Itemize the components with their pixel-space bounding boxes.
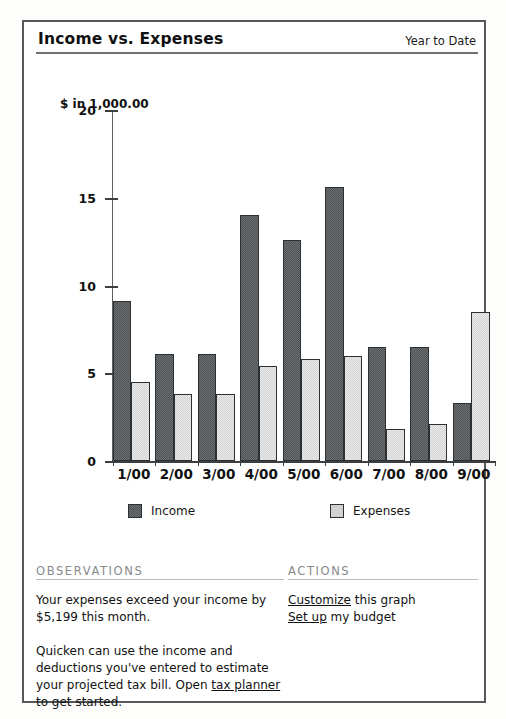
bar-income-2-00 — [155, 354, 174, 461]
bar-income-8-00 — [410, 347, 429, 461]
actions-section: ACTIONS Customize this graph Set up my b… — [288, 560, 478, 626]
bar-expenses-8-00 — [429, 424, 448, 461]
page-title: Income vs. Expenses — [38, 30, 223, 48]
x-tick-end — [495, 461, 496, 466]
observations-divider — [36, 579, 284, 580]
y-tick-10: 10 — [105, 286, 118, 288]
bar-expenses-7-00 — [386, 429, 405, 461]
x-axis-label-3-00: 3/00 — [196, 466, 243, 482]
tax-planner-link[interactable]: tax planner — [211, 678, 280, 692]
legend-swatch-expenses-icon — [330, 504, 344, 518]
bar-expenses-4-00 — [259, 366, 278, 461]
observation-text-after-link: to get started. — [36, 695, 122, 709]
bar-expenses-1-00 — [131, 382, 150, 461]
bar-expenses-2-00 — [174, 394, 193, 461]
x-axis-label-4-00: 4/00 — [238, 466, 285, 482]
set-up-budget-text: my budget — [327, 610, 396, 624]
bar-income-5-00 — [283, 240, 302, 461]
period-label: Year to Date — [405, 34, 476, 48]
y-tick-label-10: 10 — [79, 279, 96, 294]
y-tick-0: 0 — [105, 461, 118, 463]
y-tick-label-20: 20 — [79, 103, 96, 118]
x-axis-label-7-00: 7/00 — [366, 466, 413, 482]
bar-expenses-3-00 — [216, 394, 235, 461]
action-item-budget: Set up my budget — [288, 609, 478, 626]
observation-paragraph-1: Your expenses exceed your income by $5,1… — [36, 592, 284, 626]
header-divider — [36, 52, 478, 54]
y-axis-unit-label: $ in 1,000.00 — [60, 97, 149, 111]
bar-chart-plot: 05101520 1/002/003/004/005/006/007/008/0… — [112, 110, 496, 461]
legend-label-income: Income — [151, 504, 195, 518]
bar-income-9-00 — [453, 403, 472, 461]
set-up-budget-link[interactable]: Set up — [288, 610, 327, 624]
x-axis-line — [106, 461, 496, 463]
x-axis-label-5-00: 5/00 — [281, 466, 328, 482]
observation-paragraph-2: Quicken can use the income and deduction… — [36, 643, 284, 711]
actions-body: Customize this graph Set up my budget — [288, 592, 478, 626]
bar-income-4-00 — [240, 215, 259, 461]
observations-body: Your expenses exceed your income by $5,1… — [36, 592, 284, 711]
x-axis-label-9-00: 9/00 — [451, 466, 498, 482]
bar-income-1-00 — [113, 301, 132, 461]
actions-heading-text: ACTIONS — [288, 564, 350, 578]
bar-income-7-00 — [368, 347, 387, 461]
observations-heading: OBSERVATIONS — [36, 560, 284, 580]
bar-expenses-6-00 — [344, 356, 363, 461]
action-item-customize: Customize this graph — [288, 592, 478, 609]
graph-panel: Income vs. Expenses Year to Date $ in 1,… — [22, 20, 486, 703]
bar-expenses-9-00 — [471, 312, 490, 461]
x-axis-label-8-00: 8/00 — [408, 466, 455, 482]
panel-header: Income vs. Expenses Year to Date — [34, 30, 478, 58]
observations-section: OBSERVATIONS Your expenses exceed your i… — [36, 560, 284, 711]
y-tick-20: 20 — [105, 110, 118, 112]
bar-income-6-00 — [325, 187, 344, 461]
actions-heading: ACTIONS — [288, 560, 478, 580]
legend-swatch-income-icon — [128, 504, 142, 518]
x-axis-label-2-00: 2/00 — [153, 466, 200, 482]
y-tick-label-0: 0 — [87, 454, 96, 469]
observations-heading-text: OBSERVATIONS — [36, 564, 143, 578]
customize-graph-text: this graph — [351, 593, 416, 607]
legend-item-expenses: Expenses — [330, 504, 410, 518]
bar-income-3-00 — [198, 354, 217, 461]
legend-item-income: Income — [128, 504, 195, 518]
bar-expenses-5-00 — [301, 359, 320, 461]
y-tick-15: 15 — [105, 198, 118, 200]
legend-label-expenses: Expenses — [353, 504, 410, 518]
actions-divider — [288, 579, 478, 580]
y-tick-label-5: 5 — [87, 366, 96, 381]
y-tick-label-15: 15 — [79, 191, 96, 206]
chart-legend: Income Expenses — [112, 504, 492, 526]
x-axis-label-1-00: 1/00 — [111, 466, 158, 482]
x-axis-label-6-00: 6/00 — [323, 466, 370, 482]
customize-graph-link[interactable]: Customize — [288, 593, 351, 607]
